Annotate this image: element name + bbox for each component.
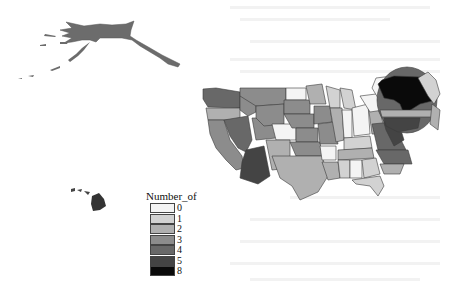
state-kansas [296,128,318,142]
state-florida [352,176,384,196]
legend-item: 2 [146,224,216,235]
region-hawaii[interactable] [71,188,106,211]
state-north-dakota [286,88,306,100]
legend-item: 8 [146,266,216,277]
alaska-islands [18,34,68,79]
state-washington [203,88,240,108]
state-ohio [352,104,370,136]
legend-item: 4 [146,245,216,256]
alaska-peninsula [68,42,90,62]
state-mississippi [338,160,350,178]
state-wisconsin [326,86,340,108]
legend: Number_of 0 1 2 3 4 5 8 [146,190,216,277]
state-north-carolina [376,150,412,164]
legend-label: 0 [177,203,182,213]
state-arizona [240,146,270,184]
cartogram-map [0,0,454,289]
state-indiana [342,110,352,138]
state-arkansas [320,146,336,160]
legend-swatch [150,203,175,213]
region-contiguous-us[interactable] [203,67,440,200]
state-texas [272,156,328,200]
legend-label: 3 [177,235,182,245]
legend-swatch [150,224,175,234]
state-iowa [314,106,332,124]
state-michigan [340,88,356,110]
state-alabama [350,160,362,178]
legend-swatch [150,256,175,266]
state-vermont-nh [430,104,440,130]
legend-item: 0 [146,203,216,214]
state-kentucky [344,136,372,150]
state-connecticut [380,110,436,117]
state-georgia [362,158,380,178]
legend-swatch [150,245,175,255]
legend-label: 5 [177,256,182,266]
state-tennessee [338,148,374,160]
legend-swatch [150,214,175,224]
legend-title: Number_of [146,190,216,202]
hawaii-islands [71,188,90,195]
legend-label: 2 [177,224,182,234]
alaska-mainland [60,21,180,67]
legend-label: 4 [177,245,182,255]
state-south-dakota [284,100,310,114]
legend-label: 8 [177,266,182,276]
hawaii-big-island [91,193,106,211]
legend-swatch [150,266,175,276]
state-oklahoma [290,142,322,156]
state-south-carolina [380,164,404,174]
region-alaska[interactable] [18,21,180,79]
legend-swatch [150,235,175,245]
legend-label: 1 [177,214,182,224]
